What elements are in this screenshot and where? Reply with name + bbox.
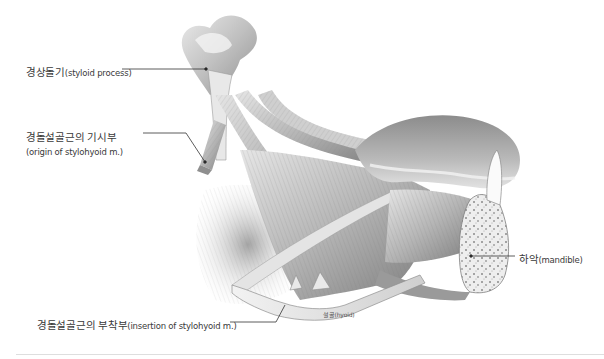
label-mandible-ko: 하악 <box>519 253 538 265</box>
label-mandible-en: (mandible) <box>538 255 582 265</box>
label-insertion-ko: 경돌설골근의 부착부 <box>37 319 127 331</box>
label-origin-en: (origin of stylohyoid m.) <box>26 148 123 157</box>
label-styloid-process-en: (styloid process) <box>65 68 132 78</box>
label-origin-ko: 경돌설골근의 기시부 <box>26 131 116 143</box>
anatomy-illustration <box>0 0 604 359</box>
bottom-divider <box>16 354 604 355</box>
label-origin-stylohyoid: 경돌설골근의 기시부 (origin of stylohyoid m.) <box>26 128 123 157</box>
label-insertion-en: (insertion of stylohyoid m.) <box>127 321 236 331</box>
hyoid-inline-label: 설골(hyoid) <box>323 312 354 318</box>
label-mandible: 하악(mandible) <box>519 250 583 266</box>
label-insertion-stylohyoid: 경돌설골근의 부착부(insertion of stylohyoid m.) <box>37 316 237 332</box>
label-styloid-process-ko: 경상돌기 <box>26 66 65 78</box>
label-styloid-process: 경상돌기(styloid process) <box>26 63 132 79</box>
